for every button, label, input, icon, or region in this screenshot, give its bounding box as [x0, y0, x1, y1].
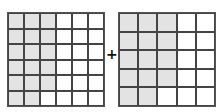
shaded-cell: [157, 69, 176, 88]
shaded-cell: [138, 69, 157, 88]
empty-cell: [196, 87, 215, 106]
shaded-cell: [138, 13, 157, 32]
shaded-cell: [40, 75, 56, 91]
empty-cell: [72, 60, 88, 76]
empty-cell: [72, 75, 88, 91]
empty-cell: [56, 60, 72, 76]
empty-cell: [72, 44, 88, 60]
shaded-cell: [138, 50, 157, 69]
empty-cell: [72, 29, 88, 45]
shaded-cell: [40, 29, 56, 45]
empty-cell: [56, 91, 72, 107]
empty-cell: [88, 44, 104, 60]
empty-cell: [196, 69, 215, 88]
right-fraction-grid: [118, 12, 216, 107]
shaded-cell: [24, 75, 40, 91]
empty-cell: [88, 13, 104, 29]
empty-cell: [88, 29, 104, 45]
shaded-cell: [8, 13, 24, 29]
shaded-cell: [24, 91, 40, 107]
empty-cell: [40, 91, 56, 107]
empty-cell: [88, 60, 104, 76]
empty-cell: [56, 29, 72, 45]
shaded-cell: [119, 69, 138, 88]
shaded-cell: [157, 13, 176, 32]
shaded-cell: [138, 32, 157, 51]
empty-cell: [177, 50, 196, 69]
shaded-cell: [24, 60, 40, 76]
shaded-cell: [8, 29, 24, 45]
empty-cell: [177, 87, 196, 106]
shaded-cell: [8, 75, 24, 91]
plus-sign: +: [106, 47, 117, 61]
shaded-cell: [24, 29, 40, 45]
empty-cell: [56, 44, 72, 60]
shaded-cell: [119, 13, 138, 32]
empty-cell: [56, 13, 72, 29]
shaded-cell: [8, 44, 24, 60]
shaded-cell: [119, 32, 138, 51]
empty-cell: [196, 50, 215, 69]
shaded-cell: [8, 60, 24, 76]
empty-cell: [196, 13, 215, 32]
empty-cell: [177, 69, 196, 88]
shaded-cell: [8, 91, 24, 107]
left-fraction-grid: [7, 12, 105, 107]
empty-cell: [177, 13, 196, 32]
shaded-cell: [138, 87, 157, 106]
empty-cell: [56, 75, 72, 91]
empty-cell: [196, 32, 215, 51]
shaded-cell: [119, 87, 138, 106]
shaded-cell: [157, 50, 176, 69]
shaded-cell: [119, 50, 138, 69]
shaded-cell: [40, 44, 56, 60]
empty-cell: [88, 75, 104, 91]
shaded-cell: [157, 32, 176, 51]
empty-cell: [177, 32, 196, 51]
shaded-cell: [24, 13, 40, 29]
empty-cell: [88, 91, 104, 107]
shaded-cell: [40, 13, 56, 29]
empty-cell: [72, 91, 88, 107]
empty-cell: [72, 13, 88, 29]
shaded-cell: [40, 60, 56, 76]
empty-cell: [157, 87, 176, 106]
shaded-cell: [24, 44, 40, 60]
